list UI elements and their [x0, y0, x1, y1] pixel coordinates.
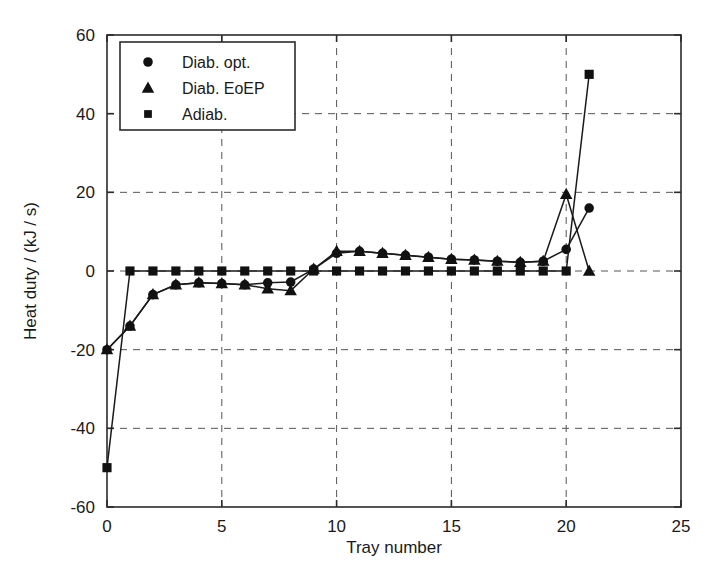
x-axis-label: Tray number — [346, 538, 442, 557]
data-point-marker — [194, 266, 203, 275]
data-point-marker — [585, 70, 594, 79]
x-tick-label: 15 — [442, 517, 461, 536]
data-point-marker — [125, 266, 134, 275]
data-point-marker — [493, 266, 502, 275]
heat-duty-line-chart: 0510152025 -60-40-200204060 Tray number … — [0, 0, 727, 585]
data-point-marker — [355, 266, 364, 275]
data-point-marker — [401, 266, 410, 275]
data-point-marker — [171, 266, 180, 275]
data-point-marker — [584, 203, 594, 213]
data-point-marker — [217, 266, 226, 275]
data-point-marker — [424, 266, 433, 275]
x-tick-label: 10 — [327, 517, 346, 536]
data-point-marker — [332, 266, 341, 275]
y-tick-label: 0 — [86, 262, 95, 281]
data-point-marker — [148, 266, 157, 275]
x-tick-label: 20 — [557, 517, 576, 536]
legend-marker-circle — [143, 57, 153, 67]
y-tick-label: 60 — [76, 26, 95, 45]
chart-figure: 0510152025 -60-40-200204060 Tray number … — [0, 0, 727, 585]
y-tick-label: -20 — [70, 341, 95, 360]
legend-label: Diab. EoEP — [182, 80, 265, 97]
data-point-marker — [516, 266, 525, 275]
y-tick-label: -60 — [70, 498, 95, 517]
data-point-marker — [102, 463, 111, 472]
legend-marker-square — [144, 110, 152, 118]
legend-label: Adiab. — [182, 106, 227, 123]
x-tick-label: 25 — [672, 517, 691, 536]
data-point-marker — [447, 266, 456, 275]
data-point-marker — [263, 266, 272, 275]
x-tick-label: 0 — [102, 517, 111, 536]
y-tick-label: -40 — [70, 419, 95, 438]
data-point-marker — [240, 266, 249, 275]
data-point-marker — [286, 266, 295, 275]
chart-legend: Diab. opt.Diab. EoEPAdiab. — [120, 42, 295, 130]
data-point-marker — [539, 266, 548, 275]
legend-label: Diab. opt. — [182, 54, 250, 71]
data-point-marker — [470, 266, 479, 275]
x-tick-label: 5 — [217, 517, 226, 536]
data-point-marker — [562, 266, 571, 275]
chart-background — [0, 0, 727, 585]
y-axis-label: Heat duty / (kJ / s) — [21, 202, 40, 340]
data-point-marker — [309, 266, 318, 275]
y-tick-label: 20 — [76, 183, 95, 202]
data-point-marker — [378, 266, 387, 275]
y-tick-label: 40 — [76, 105, 95, 124]
